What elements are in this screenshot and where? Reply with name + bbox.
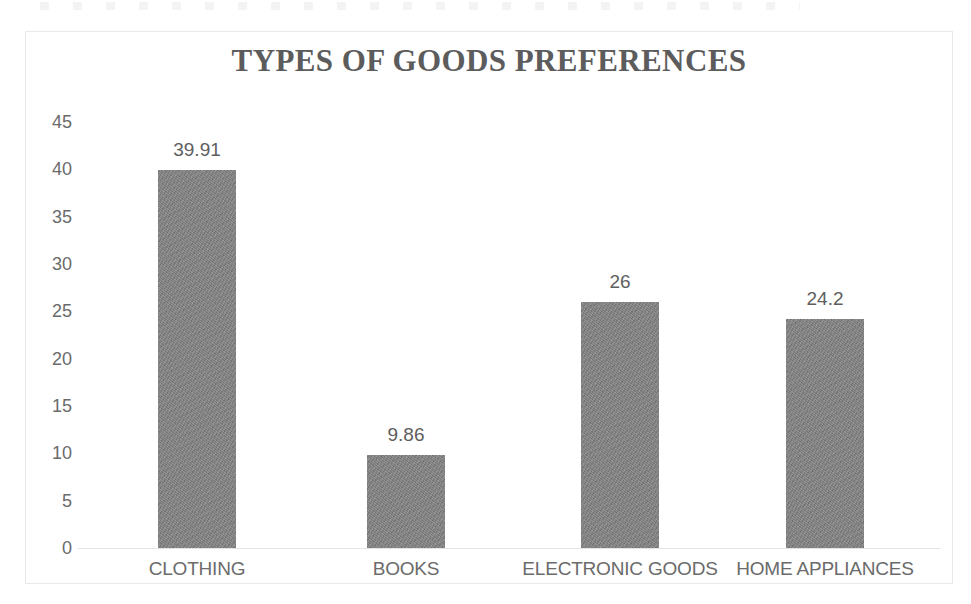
bar-value-label: 39.91: [173, 139, 221, 161]
chart-container: TYPES OF GOODS PREFERENCES 4540353025201…: [0, 0, 971, 604]
y-axis-tick-label: 35: [28, 206, 72, 227]
y-axis-tick-label: 40: [28, 159, 72, 180]
bar-value-label: 26: [609, 271, 630, 293]
y-axis: 454035302520151050: [20, 0, 72, 604]
y-axis-tick-label: 15: [28, 396, 72, 417]
y-axis-tick-label: 20: [28, 348, 72, 369]
bar-value-label: 24.2: [807, 288, 844, 310]
bar: [367, 455, 445, 548]
y-axis-tick-label: 10: [28, 443, 72, 464]
x-axis-line: [78, 548, 940, 549]
y-axis-tick-label: 25: [28, 301, 72, 322]
bar: [581, 302, 659, 548]
x-axis-category-label: CLOTHING: [149, 558, 246, 580]
x-axis-category-label: HOME APPLIANCES: [736, 558, 914, 580]
x-axis-category-label: BOOKS: [373, 558, 440, 580]
scan-artifact: [40, 2, 800, 10]
y-axis-tick-label: 0: [28, 538, 72, 559]
bar: [158, 170, 236, 548]
y-axis-tick-label: 30: [28, 254, 72, 275]
x-axis-category-label: ELECTRONIC GOODS: [522, 558, 717, 580]
y-axis-tick-label: 45: [28, 112, 72, 133]
chart-title: TYPES OF GOODS PREFERENCES: [25, 43, 953, 79]
bar: [786, 319, 864, 548]
bar-value-label: 9.86: [388, 424, 425, 446]
y-axis-tick-label: 5: [28, 490, 72, 511]
